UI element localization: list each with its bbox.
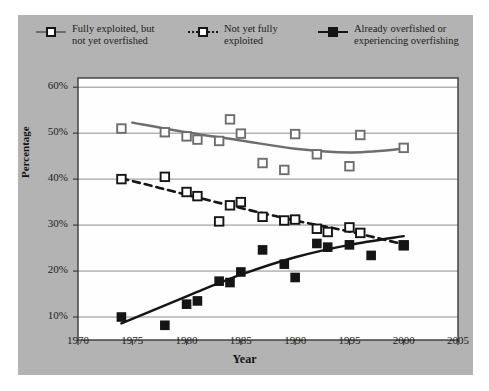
data-point xyxy=(400,241,408,249)
data-point xyxy=(161,128,170,136)
data-point xyxy=(182,132,191,141)
data-point xyxy=(193,297,201,305)
data-point xyxy=(323,228,332,237)
data-point xyxy=(215,277,223,285)
data-point xyxy=(291,130,300,139)
x-tick-label: 1990 xyxy=(275,334,315,346)
data-point xyxy=(258,213,267,222)
x-tick-label: 1980 xyxy=(167,334,207,346)
data-point xyxy=(183,300,191,308)
y-tick-label: 50% xyxy=(28,125,68,137)
data-point xyxy=(313,150,322,159)
data-point xyxy=(182,188,191,197)
data-point xyxy=(226,279,234,287)
y-tick-label: 20% xyxy=(28,263,68,275)
y-tick-label: 40% xyxy=(28,171,68,183)
data-point xyxy=(345,241,353,249)
chart-svg xyxy=(0,0,489,391)
data-point xyxy=(117,124,126,133)
data-point xyxy=(313,225,322,234)
data-point xyxy=(259,246,267,254)
chart-figure: Fully exploited, but not yet overfished … xyxy=(0,0,489,391)
x-tick-label: 2005 xyxy=(438,334,478,346)
data-point xyxy=(226,115,235,124)
data-point xyxy=(291,215,300,224)
data-point xyxy=(193,192,202,201)
data-point xyxy=(117,313,125,321)
data-point xyxy=(226,201,235,210)
x-tick-label: 1975 xyxy=(112,334,152,346)
data-point xyxy=(313,239,321,247)
plot-area-wrapper xyxy=(0,0,489,391)
x-tick-label: 2000 xyxy=(384,334,424,346)
data-point xyxy=(291,273,299,281)
data-point xyxy=(215,137,224,146)
data-point xyxy=(161,321,169,329)
x-tick-label: 1970 xyxy=(58,334,98,346)
y-tick-label: 60% xyxy=(28,79,68,91)
data-point xyxy=(237,198,246,207)
data-point xyxy=(193,135,202,144)
data-point xyxy=(399,144,408,153)
x-axis-title: Year xyxy=(0,352,489,367)
y-tick-label: 30% xyxy=(28,217,68,229)
data-point xyxy=(258,159,267,168)
data-point xyxy=(280,216,289,225)
data-point xyxy=(356,229,365,238)
x-tick-label: 1995 xyxy=(329,334,369,346)
plot-background xyxy=(78,78,458,340)
data-point xyxy=(280,260,288,268)
x-tick-label: 1985 xyxy=(221,334,261,346)
data-point xyxy=(117,175,126,184)
data-point xyxy=(237,268,245,276)
data-point xyxy=(237,129,246,138)
data-point xyxy=(161,173,170,182)
data-point xyxy=(345,162,354,171)
y-tick-label: 10% xyxy=(28,309,68,321)
data-point xyxy=(324,243,332,251)
data-point xyxy=(215,217,224,226)
data-point xyxy=(345,223,354,232)
data-point xyxy=(367,251,375,259)
data-point xyxy=(356,131,365,140)
data-point xyxy=(280,166,289,175)
